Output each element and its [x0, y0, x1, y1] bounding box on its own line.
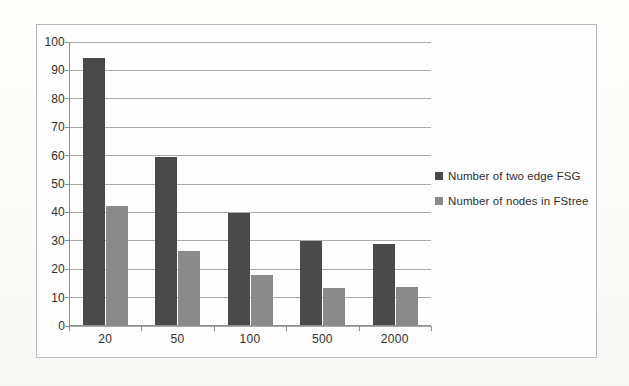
- legend-swatch-icon: [435, 172, 443, 180]
- x-axis-tick-label: 2000: [359, 332, 431, 346]
- legend-item-label: Number of two edge FSG: [448, 170, 581, 182]
- x-axis-tick-mark: [431, 326, 432, 331]
- bar-20-series-1[interactable]: [106, 206, 128, 325]
- bar-100-series-0[interactable]: [228, 213, 250, 325]
- x-axis-tick-mark: [214, 326, 215, 331]
- bar-500-series-0[interactable]: [300, 241, 322, 325]
- plot-area: [69, 42, 431, 326]
- x-axis-tick-mark: [69, 326, 70, 331]
- y-axis-tick-label: 50: [51, 177, 65, 191]
- legend-swatch-icon: [435, 197, 443, 205]
- bar-group: [286, 42, 358, 325]
- bar-group: [69, 42, 141, 325]
- legend-item-label: Number of nodes in FStree: [448, 195, 589, 207]
- bar-2000-series-0[interactable]: [373, 244, 395, 325]
- bar-group: [359, 42, 431, 325]
- y-axis-tick-label: 10: [51, 291, 65, 305]
- y-axis-tick-label: 80: [51, 92, 65, 106]
- chart-legend: Number of two edge FSGNumber of nodes in…: [435, 170, 585, 220]
- x-axis-tick-mark: [286, 326, 287, 331]
- x-axis-tick-mark: [359, 326, 360, 331]
- legend-item-1[interactable]: Number of nodes in FStree: [435, 195, 585, 207]
- y-axis: 0102030405060708090100: [37, 42, 65, 326]
- bar-100-series-1[interactable]: [251, 275, 273, 325]
- chart-frame: 0102030405060708090100 20501005002000 Nu…: [36, 24, 597, 358]
- y-axis-tick-label: 20: [51, 262, 65, 276]
- bar-20-series-0[interactable]: [83, 58, 105, 325]
- bar-50-series-0[interactable]: [155, 157, 177, 325]
- y-axis-tick-label: 30: [51, 234, 65, 248]
- bar-50-series-1[interactable]: [178, 251, 200, 325]
- bar-500-series-1[interactable]: [323, 288, 345, 325]
- x-axis-tick-label: 500: [286, 332, 358, 346]
- y-axis-tick-label: 70: [51, 120, 65, 134]
- bar-group: [141, 42, 213, 325]
- bar-2000-series-1[interactable]: [396, 287, 418, 325]
- y-axis-tick-label: 90: [51, 63, 65, 77]
- bar-group: [214, 42, 286, 325]
- y-axis-tick-label: 100: [44, 35, 65, 49]
- x-axis-tick-label: 100: [214, 332, 286, 346]
- x-axis-tick-mark: [141, 326, 142, 331]
- y-axis-tick-label: 60: [51, 149, 65, 163]
- y-axis-tick-label: 40: [51, 205, 65, 219]
- x-axis-tick-label: 50: [141, 332, 213, 346]
- bars-layer: [69, 42, 431, 326]
- y-axis-tick-label: 0: [58, 319, 65, 333]
- x-axis-tick-label: 20: [69, 332, 141, 346]
- legend-item-0[interactable]: Number of two edge FSG: [435, 170, 585, 182]
